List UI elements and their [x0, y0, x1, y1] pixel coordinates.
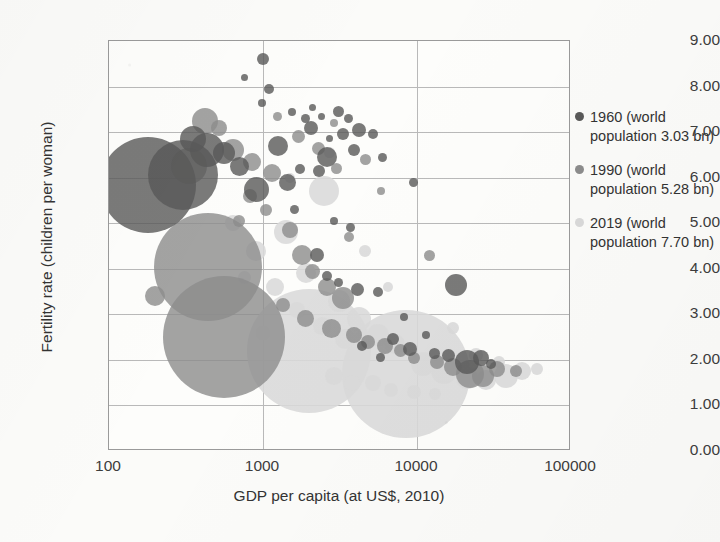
data-bubble	[359, 245, 371, 257]
data-bubble	[429, 348, 440, 359]
data-bubble	[322, 271, 332, 281]
data-bubble	[352, 123, 366, 137]
data-bubble	[318, 113, 325, 120]
data-bubble	[288, 108, 296, 116]
data-bubble	[445, 274, 467, 296]
data-bubble	[233, 215, 245, 227]
x-axis-title: GDP per capita (at US$, 2010)	[108, 487, 570, 505]
y-axis-tick-label: 9.00	[622, 32, 720, 47]
plot-area	[108, 40, 570, 450]
x-axis-tick-label: 100	[95, 458, 121, 474]
data-bubble	[409, 178, 418, 187]
legend-marker-icon	[575, 218, 584, 227]
data-bubble	[290, 205, 299, 214]
data-bubble	[279, 174, 296, 191]
x-axis-tick-label: 1000	[245, 458, 279, 474]
bubble-chart: 9.008.007.006.005.004.003.002.001.000.00…	[0, 0, 720, 542]
data-bubble	[326, 135, 333, 142]
data-bubble	[344, 375, 360, 391]
data-bubble	[241, 74, 248, 81]
legend-item-1990[interactable]: 1990 (world population 5.28 bn)	[575, 161, 715, 199]
data-bubble	[258, 99, 266, 107]
data-bubble	[180, 126, 206, 152]
data-bubble	[447, 322, 459, 334]
y-axis-title: Fertility rate (children per woman)	[38, 42, 56, 432]
data-bubble	[403, 342, 417, 356]
data-bubble	[292, 130, 305, 143]
data-bubble	[424, 250, 435, 261]
data-bubble	[442, 349, 455, 362]
gridline-horizontal	[109, 87, 569, 88]
data-bubble	[330, 119, 338, 127]
y-axis-tick-label: 8.00	[622, 78, 720, 93]
data-bubble	[429, 388, 441, 400]
x-axis-tick-label: 10000	[394, 458, 437, 474]
data-bubble	[346, 223, 355, 232]
data-bubble	[365, 375, 381, 391]
data-bubble	[309, 104, 316, 111]
data-bubble	[344, 114, 353, 123]
data-bubble	[373, 287, 383, 297]
legend-marker-icon	[575, 165, 584, 174]
data-bubble	[264, 84, 274, 94]
data-bubble	[407, 385, 421, 399]
x-axis-tick-label: 100000	[544, 458, 596, 474]
data-bubble	[230, 157, 249, 176]
data-bubble	[531, 363, 543, 375]
data-bubble	[322, 319, 341, 338]
data-bubble	[383, 282, 393, 292]
data-bubble	[351, 283, 364, 296]
data-bubble	[325, 367, 343, 385]
data-bubble	[154, 213, 262, 321]
data-bubble	[266, 278, 284, 296]
data-bubble	[257, 53, 269, 65]
data-bubble	[344, 232, 354, 242]
data-bubble	[268, 136, 288, 156]
data-bubble	[334, 278, 343, 287]
legend-item-label: 1960 (world population 3.03 bn)	[590, 108, 715, 146]
data-bubble	[260, 204, 272, 216]
gridline-horizontal	[109, 405, 569, 406]
data-bubble	[337, 128, 349, 140]
y-axis-tick-label: 1.00	[622, 396, 720, 411]
legend-item-1960[interactable]: 1960 (world population 3.03 bn)	[575, 108, 715, 146]
y-axis-tick-label: 0.00	[622, 442, 720, 457]
y-axis-tick-label: 3.00	[622, 305, 720, 320]
data-bubble	[384, 383, 398, 397]
data-bubble	[295, 164, 305, 174]
data-bubble	[400, 313, 408, 321]
data-bubble	[360, 154, 371, 165]
data-bubble	[486, 359, 496, 369]
data-bubble	[318, 278, 336, 296]
data-bubble	[145, 286, 165, 306]
y-axis-tick-label: 2.00	[622, 351, 720, 366]
legend-item-label: 1990 (world population 5.28 bn)	[590, 161, 715, 199]
data-bubble	[368, 129, 378, 139]
data-bubble	[273, 112, 282, 121]
data-bubble	[211, 120, 227, 136]
data-bubble	[305, 264, 320, 279]
data-bubble	[313, 165, 325, 177]
data-bubble	[333, 106, 344, 117]
data-bubble	[244, 177, 269, 202]
data-bubble	[310, 248, 324, 262]
data-bubble	[348, 144, 360, 156]
data-bubble	[377, 187, 385, 195]
data-bubble	[378, 153, 387, 162]
chart-legend: 1960 (world population 3.03 bn)1990 (wor…	[575, 108, 715, 267]
legend-marker-icon	[575, 112, 584, 121]
legend-item-label: 2019 (world population 7.70 bn)	[590, 214, 715, 252]
data-bubble	[309, 176, 339, 206]
legend-item-2019[interactable]: 2019 (world population 7.70 bn)	[575, 214, 715, 252]
